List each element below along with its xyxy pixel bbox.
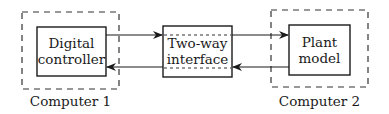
digital-controller-line-2: controller: [37, 51, 106, 67]
plant-model-line-1: Plant: [289, 34, 350, 50]
two-way-interface-line-1: Two-way: [163, 35, 232, 51]
plant-model-label: Plant model: [289, 34, 350, 66]
computer-2-caption: Computer 2: [271, 93, 368, 109]
digital-controller-line-1: Digital: [37, 35, 106, 51]
two-way-interface-label: Two-way interface: [163, 35, 232, 67]
digital-controller-label: Digital controller: [37, 35, 106, 67]
computer-1-caption: Computer 1: [22, 93, 119, 109]
plant-model-line-2: model: [289, 50, 350, 66]
two-way-interface-line-2: interface: [163, 51, 232, 67]
